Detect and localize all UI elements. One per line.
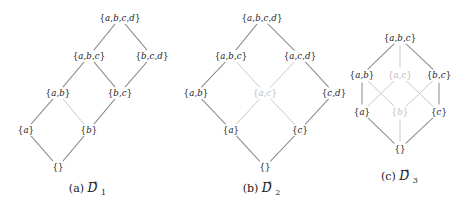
lattice-figure: {a,b,c,d}{a,b,c}{b,c,d}{a,b}{b,c}{a}{b}{… bbox=[0, 0, 473, 207]
lattice-node: {a} bbox=[352, 107, 371, 118]
panel-caption: (c) D*3 bbox=[381, 170, 419, 183]
lattice-edge bbox=[406, 118, 433, 144]
lattice-node: {a,b,c} bbox=[382, 33, 418, 44]
lattice-node: {c} bbox=[429, 107, 448, 118]
lattice-edge bbox=[368, 118, 395, 144]
lattice-node: {a,c} bbox=[386, 70, 413, 81]
lattice-node: {a,b} bbox=[348, 70, 376, 81]
caption-subscript: 3 bbox=[413, 176, 418, 185]
lattice-node: {b} bbox=[390, 107, 410, 118]
lattice-node: {b,c} bbox=[425, 70, 453, 81]
caption-superscript: * bbox=[405, 168, 409, 177]
lattice-node: {} bbox=[393, 144, 407, 155]
lattice-edge bbox=[368, 44, 395, 70]
panel-c: {a,b,c}{a,b}{a,c}{b,c}{a}{b}{c}{}(c) D*3 bbox=[0, 0, 473, 207]
caption-index: (c) bbox=[381, 170, 399, 183]
lattice-edge bbox=[406, 44, 433, 70]
